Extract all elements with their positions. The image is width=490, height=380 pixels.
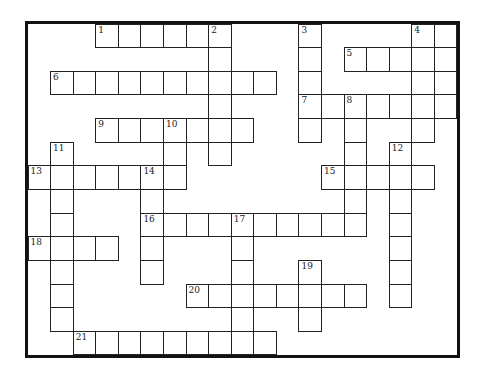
grid-cell[interactable] bbox=[140, 236, 164, 261]
grid-cell[interactable] bbox=[50, 213, 74, 238]
grid-cell[interactable]: 15 bbox=[321, 165, 345, 190]
grid-cell[interactable] bbox=[208, 213, 232, 238]
grid-cell[interactable] bbox=[298, 213, 322, 238]
grid-cell[interactable] bbox=[434, 47, 458, 72]
grid-cell[interactable] bbox=[231, 260, 255, 285]
grid-cell[interactable]: 6 bbox=[50, 71, 74, 96]
grid-cell[interactable] bbox=[321, 284, 345, 309]
grid-cell[interactable] bbox=[276, 213, 300, 238]
grid-cell[interactable] bbox=[344, 142, 368, 167]
grid-cell[interactable] bbox=[50, 284, 74, 309]
grid-cell[interactable]: 17 bbox=[231, 213, 255, 238]
grid-cell[interactable] bbox=[73, 236, 97, 261]
grid-cell[interactable] bbox=[163, 331, 187, 356]
grid-cell[interactable] bbox=[231, 236, 255, 261]
grid-cell[interactable] bbox=[321, 94, 345, 119]
grid-cell[interactable] bbox=[140, 260, 164, 285]
grid-cell[interactable] bbox=[411, 47, 435, 72]
grid-cell[interactable]: 7 bbox=[298, 94, 322, 119]
grid-cell[interactable] bbox=[186, 213, 210, 238]
grid-cell[interactable] bbox=[50, 165, 74, 190]
grid-cell[interactable]: 19 bbox=[298, 260, 322, 285]
grid-cell[interactable] bbox=[140, 24, 164, 49]
grid-cell[interactable] bbox=[186, 331, 210, 356]
grid-cell[interactable] bbox=[231, 284, 255, 309]
grid-cell[interactable] bbox=[95, 165, 119, 190]
grid-cell[interactable]: 20 bbox=[186, 284, 210, 309]
grid-cell[interactable]: 5 bbox=[344, 47, 368, 72]
grid-cell[interactable] bbox=[95, 236, 119, 261]
grid-cell[interactable] bbox=[366, 165, 390, 190]
grid-cell[interactable] bbox=[298, 47, 322, 72]
grid-cell[interactable] bbox=[344, 118, 368, 143]
grid-cell[interactable] bbox=[411, 71, 435, 96]
grid-cell[interactable] bbox=[140, 71, 164, 96]
grid-cell[interactable]: 18 bbox=[28, 236, 52, 261]
grid-cell[interactable] bbox=[186, 71, 210, 96]
grid-cell[interactable] bbox=[50, 189, 74, 214]
grid-cell[interactable] bbox=[344, 284, 368, 309]
grid-cell[interactable] bbox=[118, 71, 142, 96]
grid-cell[interactable]: 12 bbox=[389, 142, 413, 167]
grid-cell[interactable] bbox=[118, 118, 142, 143]
grid-cell[interactable] bbox=[73, 71, 97, 96]
grid-cell[interactable] bbox=[389, 236, 413, 261]
grid-cell[interactable]: 16 bbox=[140, 213, 164, 238]
grid-cell[interactable] bbox=[95, 71, 119, 96]
grid-cell[interactable] bbox=[208, 118, 232, 143]
grid-cell[interactable] bbox=[186, 24, 210, 49]
grid-cell[interactable] bbox=[389, 260, 413, 285]
grid-cell[interactable]: 10 bbox=[163, 118, 187, 143]
grid-cell[interactable] bbox=[140, 331, 164, 356]
grid-cell[interactable] bbox=[411, 94, 435, 119]
grid-cell[interactable] bbox=[208, 94, 232, 119]
grid-cell[interactable] bbox=[298, 118, 322, 143]
grid-cell[interactable] bbox=[163, 165, 187, 190]
grid-cell[interactable] bbox=[389, 47, 413, 72]
grid-cell[interactable] bbox=[434, 24, 458, 49]
grid-cell[interactable]: 13 bbox=[28, 165, 52, 190]
grid-cell[interactable] bbox=[411, 165, 435, 190]
grid-cell[interactable] bbox=[298, 307, 322, 332]
grid-cell[interactable]: 21 bbox=[73, 331, 97, 356]
grid-cell[interactable] bbox=[253, 331, 277, 356]
grid-cell[interactable] bbox=[208, 47, 232, 72]
grid-cell[interactable] bbox=[208, 71, 232, 96]
grid-cell[interactable] bbox=[163, 71, 187, 96]
grid-cell[interactable] bbox=[50, 307, 74, 332]
grid-cell[interactable] bbox=[389, 165, 413, 190]
grid-cell[interactable] bbox=[411, 118, 435, 143]
grid-cell[interactable] bbox=[140, 189, 164, 214]
grid-cell[interactable] bbox=[253, 213, 277, 238]
grid-cell[interactable] bbox=[50, 260, 74, 285]
grid-cell[interactable] bbox=[163, 24, 187, 49]
grid-cell[interactable]: 2 bbox=[208, 24, 232, 49]
grid-cell[interactable] bbox=[186, 118, 210, 143]
grid-cell[interactable] bbox=[389, 189, 413, 214]
grid-cell[interactable] bbox=[231, 118, 255, 143]
grid-cell[interactable] bbox=[389, 213, 413, 238]
grid-cell[interactable] bbox=[344, 213, 368, 238]
grid-cell[interactable] bbox=[344, 189, 368, 214]
grid-cell[interactable] bbox=[208, 284, 232, 309]
grid-cell[interactable] bbox=[389, 284, 413, 309]
grid-cell[interactable] bbox=[118, 165, 142, 190]
grid-cell[interactable] bbox=[118, 24, 142, 49]
grid-cell[interactable]: 3 bbox=[298, 24, 322, 49]
grid-cell[interactable] bbox=[231, 331, 255, 356]
grid-cell[interactable]: 4 bbox=[411, 24, 435, 49]
grid-cell[interactable] bbox=[366, 47, 390, 72]
grid-cell[interactable]: 14 bbox=[140, 165, 164, 190]
grid-cell[interactable] bbox=[163, 213, 187, 238]
grid-cell[interactable] bbox=[434, 94, 458, 119]
grid-cell[interactable]: 9 bbox=[95, 118, 119, 143]
grid-cell[interactable] bbox=[366, 94, 390, 119]
grid-cell[interactable] bbox=[231, 71, 255, 96]
grid-cell[interactable] bbox=[208, 331, 232, 356]
grid-cell[interactable] bbox=[118, 331, 142, 356]
grid-cell[interactable] bbox=[140, 118, 164, 143]
grid-cell[interactable] bbox=[389, 94, 413, 119]
grid-cell[interactable] bbox=[253, 71, 277, 96]
grid-cell[interactable] bbox=[344, 165, 368, 190]
grid-cell[interactable] bbox=[253, 284, 277, 309]
